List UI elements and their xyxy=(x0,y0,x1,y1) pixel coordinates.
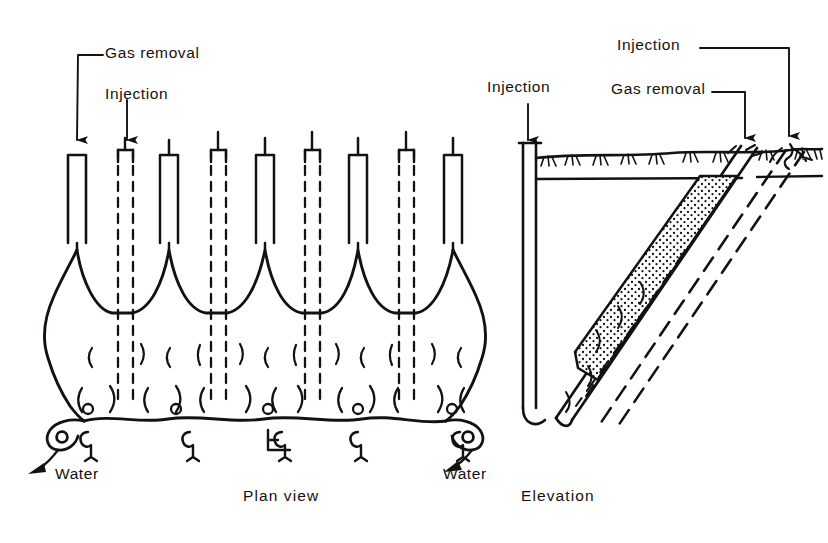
label-water-left: Water xyxy=(55,465,99,483)
elevation-view-group xyxy=(519,48,822,426)
plan-bottom-boundary xyxy=(84,418,446,422)
plan-interior-texture-row2 xyxy=(78,386,464,412)
leader-gas-removal-plan xyxy=(77,55,103,140)
label-injection-plan: Injection xyxy=(105,85,168,103)
leader-gas-removal-elevation xyxy=(712,92,745,138)
plan-right-water-loop xyxy=(446,420,483,450)
label-gas-removal-plan: Gas removal xyxy=(105,44,199,62)
label-water-right: Water xyxy=(443,465,487,483)
plan-interior-texture-row1 xyxy=(89,344,461,367)
elevation-stratum-line xyxy=(536,176,822,179)
elevation-gas-accumulation-zone xyxy=(575,176,737,380)
plan-vent-bubbles xyxy=(83,404,457,414)
plan-gas-removal-wells xyxy=(68,138,462,250)
label-injection-elevation-right: Injection xyxy=(617,36,680,54)
elevation-vertical-injection-well xyxy=(519,143,545,424)
plan-anchor-glyphs xyxy=(80,430,469,461)
caption-elevation: Elevation xyxy=(521,487,595,505)
label-gas-removal-elevation: Gas removal xyxy=(611,80,705,98)
plan-left-water-loop xyxy=(47,420,84,450)
label-injection-elevation-left: Injection xyxy=(487,78,550,96)
plan-right-boundary-lobe xyxy=(446,250,485,421)
caption-plan-view: Plan view xyxy=(243,487,319,505)
plan-water-arrow-left xyxy=(28,450,58,474)
plan-view-group xyxy=(28,55,485,474)
